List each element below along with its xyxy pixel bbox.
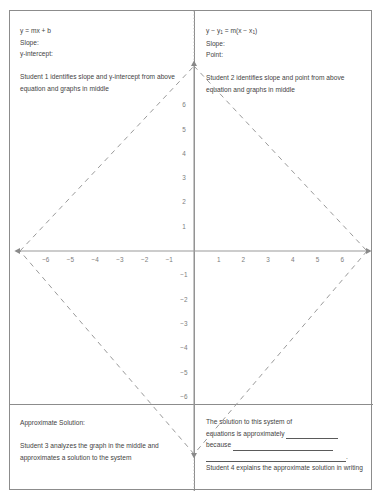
- y-tick-pos4: 4: [177, 150, 191, 157]
- x-tick-pos6: 6: [335, 256, 349, 263]
- y-tick-pos5: 5: [177, 126, 191, 133]
- spacer: [20, 60, 184, 72]
- student-2-instruction: Student 2 identifies slope and point fro…: [206, 72, 363, 95]
- point-slope-subscript-1: 1: [220, 30, 223, 35]
- student-1-instruction: Student 1 identifies slope and y-interce…: [20, 71, 184, 94]
- y-tick-neg2: −2: [177, 296, 191, 303]
- x-tick-neg4: −4: [88, 256, 102, 263]
- solution-prompt-line-4: .: [206, 451, 363, 463]
- solution-prompt-line-1: The solution to this system of: [206, 416, 363, 428]
- x-tick-pos3: 3: [261, 256, 275, 263]
- y-tick-neg3: −3: [177, 320, 191, 327]
- point-slope-equation-mid: = m(x − x: [223, 27, 253, 34]
- quadrant-top-right: y − y1 = m(x − x1) Slope: Point: Student…: [194, 11, 373, 96]
- spacer: [20, 429, 184, 441]
- x-tick-pos2: 2: [236, 256, 250, 263]
- student-3-instruction: Student 3 analyzes the graph in the midd…: [20, 440, 184, 463]
- point-slope-subscript-2: 1: [252, 30, 255, 35]
- quadrant-bottom-left: Approximate Solution: Student 3 analyzes…: [10, 404, 194, 463]
- quadrant-bottom-right: The solution to this system of equations…: [194, 404, 373, 474]
- slope-intercept-equation: y = mx + b: [20, 25, 184, 37]
- y-tick-pos3: 3: [177, 174, 191, 181]
- y-tick-pos1: 1: [177, 223, 191, 230]
- point-slope-equation-post: ): [255, 27, 257, 34]
- solution-prompt-line-3: because: [206, 439, 363, 451]
- x-tick-neg1: −1: [162, 256, 176, 263]
- y-tick-neg1: −1: [177, 271, 191, 278]
- solution-prompt-line-2: equations is approximately: [206, 428, 363, 440]
- worksheet-sheet: y = mx + b Slope: y-intercept: Student 1…: [9, 10, 372, 490]
- spacer: [206, 61, 363, 73]
- slope-field-label-1[interactable]: Slope:: [20, 37, 184, 49]
- y-tick-neg5: −5: [177, 369, 191, 376]
- y-tick-neg4: −4: [177, 344, 191, 351]
- y-tick-neg6: −6: [177, 393, 191, 400]
- y-tick-pos6: 6: [177, 101, 191, 108]
- x-tick-neg2: −2: [138, 256, 152, 263]
- y-tick-pos2: 2: [177, 198, 191, 205]
- x-tick-pos4: 4: [286, 256, 300, 263]
- x-tick-pos5: 5: [311, 256, 325, 263]
- point-slope-equation: y − y1 = m(x − x1): [206, 25, 363, 38]
- y-intercept-field-label[interactable]: y-intercept:: [20, 48, 184, 60]
- approximate-solution-label[interactable]: Approximate Solution:: [20, 417, 184, 429]
- solution-prompt-line-2-text: equations is approximately: [206, 430, 285, 437]
- student-4-instruction: Student 4 explains the approximate solut…: [206, 462, 363, 474]
- solution-prompt-line-3-text: because: [206, 441, 231, 448]
- x-tick-neg5: −5: [64, 256, 78, 263]
- quadrant-top-left: y = mx + b Slope: y-intercept: Student 1…: [10, 11, 194, 95]
- slope-field-label-2[interactable]: Slope:: [206, 38, 363, 50]
- point-field-label[interactable]: Point:: [206, 49, 363, 61]
- x-tick-pos1: 1: [212, 256, 226, 263]
- x-tick-neg3: −3: [113, 256, 127, 263]
- point-slope-equation-pre: y − y: [206, 27, 220, 34]
- x-tick-neg6: −6: [39, 256, 53, 263]
